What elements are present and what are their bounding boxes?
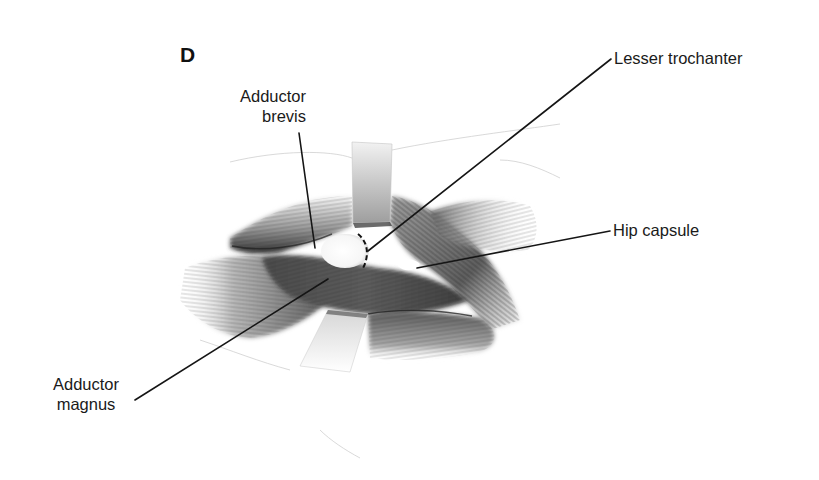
- lower-retractor: [300, 310, 368, 372]
- upper-retractor: [352, 142, 392, 228]
- label-adductor-brevis: Adductor brevis: [216, 86, 306, 126]
- label-lesser-trochanter: Lesser trochanter: [614, 48, 742, 68]
- label-adductor-magnus: Adductor magnus: [44, 374, 128, 414]
- label-adductor-brevis-line1: Adductor: [216, 86, 306, 106]
- label-adductor-magnus-line1: Adductor: [44, 374, 128, 394]
- label-adductor-brevis-line2: brevis: [216, 106, 306, 126]
- label-hip-capsule: Hip capsule: [613, 220, 699, 240]
- panel-letter: D: [180, 44, 195, 65]
- anatomical-figure: D Adductor brevis Lesser trochanter Hip …: [0, 0, 819, 480]
- lower-muscle-mass: [368, 310, 494, 360]
- label-adductor-magnus-line2: magnus: [44, 394, 128, 414]
